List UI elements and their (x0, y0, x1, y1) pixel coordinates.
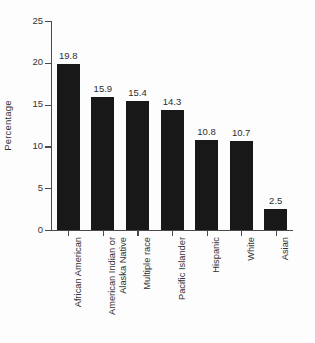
x-category-label: American Indian or Alaska Native (107, 237, 128, 341)
bar-value-label: 14.3 (150, 96, 194, 107)
x-category-label: Hispanic (211, 237, 222, 341)
bar-chart: Percentage 0510152025 19.815.915.414.310… (0, 0, 315, 343)
x-tick-mark (276, 231, 277, 236)
bar-value-label: 19.8 (46, 50, 90, 61)
x-tick-mark (241, 231, 242, 236)
y-tick-label: 15 (32, 98, 43, 109)
y-tick-label: 0 (38, 224, 43, 235)
y-tick-label: 10 (32, 140, 43, 151)
x-tick-mark (207, 231, 208, 236)
x-tick-mark (172, 231, 173, 236)
y-axis-label: Percentage (2, 71, 13, 181)
x-category-label: Asian (280, 237, 291, 341)
x-tick-mark (137, 231, 138, 236)
x-category-label: Multiple race (142, 237, 153, 341)
bar (57, 64, 80, 230)
x-tick-mark (68, 231, 69, 236)
bar (126, 101, 149, 230)
bar (264, 209, 287, 230)
bar (230, 141, 253, 230)
y-tick-label: 20 (32, 56, 43, 67)
plot-area: 19.815.915.414.310.810.72.5 (51, 21, 293, 230)
x-tick-mark (103, 231, 104, 236)
y-tick-label: 5 (38, 182, 43, 193)
bar-value-label: 2.5 (254, 195, 298, 206)
bar (161, 110, 184, 230)
x-category-label: African American (73, 237, 84, 341)
y-tick-mark (45, 230, 51, 231)
y-tick-label: 25 (32, 15, 43, 26)
bar (195, 140, 218, 230)
bar-value-label: 10.7 (219, 127, 263, 138)
x-category-label: Pacific Islander (177, 237, 188, 341)
x-category-label: White (246, 237, 257, 341)
bar (91, 97, 114, 230)
